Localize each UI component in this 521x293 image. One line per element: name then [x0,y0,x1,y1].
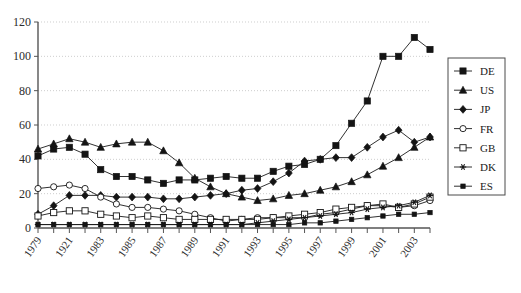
data-point-us [128,138,135,145]
data-point-de [82,151,88,157]
data-point-de [254,175,260,181]
data-point-es [146,222,150,226]
data-point-jp [254,185,261,193]
legend-box [448,58,505,195]
data-point-de [427,46,433,52]
data-point-jp [113,193,120,201]
x-tick-label: 1999 [335,234,358,259]
data-point-jp [411,138,418,146]
data-point-es [224,222,228,226]
data-point-jp [144,193,151,201]
data-point-gb [301,211,307,217]
data-point-fr [82,185,88,191]
series-dk [35,193,433,228]
data-point-gb [192,216,198,222]
x-tick-label: 1989 [178,234,201,259]
data-point-gb [35,213,41,219]
data-point-gb [176,216,182,222]
data-point-fr [129,204,135,210]
data-point-es [193,222,197,226]
data-point-es [99,222,103,226]
legend-marker-de [460,68,466,74]
line-chart: 020406080100120 197919211983198519871989… [0,0,521,293]
legend-label-gb: GB [480,142,495,154]
data-point-es [349,217,353,221]
data-point-de [223,173,229,179]
data-point-de [145,177,151,183]
x-tick-labels: 1979192119831985198719891991199319951997… [21,234,420,259]
data-point-gb [66,208,72,214]
x-tick-label: 1921 [53,234,75,259]
data-point-gb [333,206,339,212]
data-point-de [160,180,166,186]
data-point-gb [349,204,355,210]
axes [34,22,430,228]
legend-label-fr: FR [480,123,494,135]
data-point-de [66,144,72,150]
data-point-fr [66,182,72,188]
y-tick-label: 40 [19,152,31,166]
data-point-es [271,222,275,226]
data-point-es [240,222,244,226]
data-point-es [287,222,291,226]
data-point-us [379,162,386,169]
series-fr [35,182,433,224]
data-point-de [129,173,135,179]
x-tick-label: 1987 [147,234,170,259]
data-point-jp [176,195,183,203]
data-point-de [333,143,339,149]
data-point-de [286,163,292,169]
x-tick-label: 2001 [366,234,388,259]
y-tick-label: 80 [19,84,31,98]
data-point-de [207,175,213,181]
data-point-es [428,210,432,214]
data-point-us [348,178,355,185]
legend-label-es: ES [480,180,493,192]
y-tick-labels: 020406080100120 [13,15,31,235]
data-point-fr [145,204,151,210]
data-point-jp [82,191,89,199]
data-point-es [396,212,400,216]
data-point-de [364,98,370,104]
data-point-fr [98,194,104,200]
series-us [34,133,433,203]
data-point-us [66,135,73,142]
data-point-jp [285,169,292,177]
data-point-gb [207,216,213,222]
chart-root: 020406080100120 197919211983198519871989… [0,0,521,293]
data-point-de [113,173,119,179]
data-point-de [239,175,245,181]
data-point-es [255,222,259,226]
data-point-jp [66,191,73,199]
data-point-gb [223,216,229,222]
series-layer [34,34,433,227]
y-tick-label: 60 [19,118,31,132]
series-jp [35,126,434,218]
series-line-es [38,213,430,225]
data-point-fr [51,184,57,190]
data-point-fr [35,185,41,191]
data-point-us [175,159,182,166]
data-point-jp [348,154,355,162]
data-point-es [114,222,118,226]
data-point-us [207,183,214,190]
legend-marker-fr [460,126,466,132]
x-tick-label: 1979 [21,234,44,259]
series-de [35,34,433,186]
data-point-es [318,221,322,225]
legend-label-jp: JP [480,103,490,115]
data-point-gb [254,216,260,222]
data-point-us [395,154,402,161]
x-tick-marks [38,228,430,233]
data-point-jp [364,143,371,151]
x-tick-label: 2003 [398,234,421,259]
data-point-us [364,171,371,178]
data-point-es [130,222,134,226]
legend[interactable]: DEUSJPFRGBDKES [448,58,505,195]
x-tick-label: 1995 [272,234,295,259]
data-point-jp [191,193,198,201]
data-point-de [176,177,182,183]
data-point-jp [238,186,245,194]
legend-marker-es [461,184,465,188]
data-point-es [381,214,385,218]
